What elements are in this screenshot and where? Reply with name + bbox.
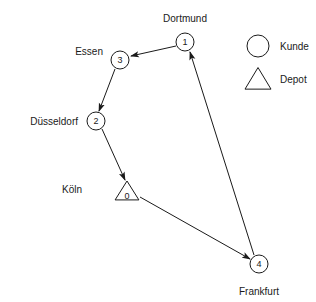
legend-item-kunde: Kunde xyxy=(247,35,309,57)
edge-0-to-4 xyxy=(140,197,250,259)
node-id-label-4: 4 xyxy=(256,259,261,269)
edge-4-to-1 xyxy=(190,52,254,255)
graph-canvas: 01234 KölnDortmundDüsseldorfEssenFrankfu… xyxy=(0,0,316,302)
node-0-depot[interactable]: 0 xyxy=(115,181,139,201)
node-id-label-2: 2 xyxy=(93,116,98,126)
legend-group: KundeDepot xyxy=(245,35,309,89)
legend-triangle-icon xyxy=(245,68,271,90)
node-id-label-0: 0 xyxy=(124,191,129,201)
node-id-label-3: 3 xyxy=(117,55,122,65)
legend-label-depot: Depot xyxy=(280,74,307,85)
city-label-kln: Köln xyxy=(62,184,82,195)
node-2-kunde[interactable]: 2 xyxy=(87,112,105,130)
legend-label-kunde: Kunde xyxy=(280,41,309,52)
edges-group xyxy=(99,46,254,259)
legend-item-depot: Depot xyxy=(245,68,307,90)
edge-1-to-3 xyxy=(131,46,176,56)
city-label-dortmund: Dortmund xyxy=(163,13,207,24)
legend-circle-icon xyxy=(247,35,269,57)
node-4-kunde[interactable]: 4 xyxy=(250,255,268,273)
edge-3-to-2 xyxy=(99,69,115,111)
route-diagram: 01234 KölnDortmundDüsseldorfEssenFrankfu… xyxy=(0,0,316,302)
nodes-group: 01234 xyxy=(87,33,268,273)
edge-2-to-0 xyxy=(102,129,125,180)
city-label-dsseldorf: Düsseldorf xyxy=(30,116,78,127)
city-label-essen: Essen xyxy=(75,46,103,57)
node-1-kunde[interactable]: 1 xyxy=(176,33,194,51)
city-label-frankfurt: Frankfurt xyxy=(239,286,279,297)
node-3-kunde[interactable]: 3 xyxy=(111,51,129,69)
node-id-label-1: 1 xyxy=(182,37,187,47)
